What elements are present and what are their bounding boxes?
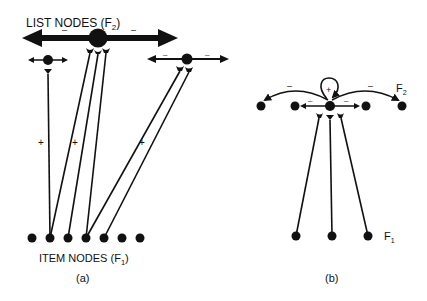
f2-node-active (325, 101, 335, 111)
excitatory-connections-b (296, 118, 368, 236)
plus-sign: + (38, 137, 44, 148)
minus-sign: – (344, 96, 349, 105)
f2-node (257, 102, 266, 111)
f2-label: F2 (396, 82, 407, 96)
panel-a: LIST NODES (F2) – – – (22, 16, 229, 284)
minus-sign: – (163, 50, 168, 59)
panel-a-label: (a) (76, 272, 89, 284)
excitatory-connections-a (48, 53, 189, 238)
f1-label: F1 (384, 230, 395, 244)
item-node (118, 234, 127, 243)
f1-node (328, 232, 337, 241)
f2-node (362, 102, 371, 111)
list-node-small (43, 55, 53, 65)
list-node-right (182, 54, 193, 65)
synapse-cap-small (44, 69, 52, 74)
f2-node (398, 102, 407, 111)
f1-node (364, 232, 373, 241)
minus-sign: – (308, 96, 313, 105)
minus-sign: – (287, 81, 292, 91)
diagram-canvas: LIST NODES (F2) – – – (0, 0, 427, 301)
diagram-svg: LIST NODES (F2) – – – (0, 0, 427, 301)
long-range-inhibition (265, 91, 398, 100)
minus-sign: – (368, 81, 373, 91)
f2-nodes (257, 101, 407, 111)
plus-sign: + (139, 137, 145, 148)
item-node (28, 234, 37, 243)
plus-sign: + (72, 137, 78, 148)
item-node (82, 234, 91, 243)
item-node (100, 234, 109, 243)
minus-sign: – (62, 25, 67, 35)
item-node (136, 234, 145, 243)
list-nodes-label: LIST NODES (F2) (26, 16, 120, 32)
f1-nodes (292, 232, 373, 241)
item-node (46, 234, 55, 243)
list-node-large (89, 29, 108, 48)
f1-node (292, 232, 301, 241)
panel-b: – – + – – F2 (257, 78, 407, 284)
synapse-caps-b (316, 113, 344, 120)
f2-node (291, 102, 300, 111)
panel-b-label: (b) (325, 272, 338, 284)
minus-sign: – (131, 25, 136, 35)
item-nodes (28, 234, 145, 243)
synapse-caps-right (176, 66, 193, 72)
plus-sign: + (326, 85, 331, 95)
item-nodes-label: ITEM NODES (F1) (39, 252, 129, 267)
minus-sign: – (205, 50, 210, 59)
item-node (64, 234, 73, 243)
